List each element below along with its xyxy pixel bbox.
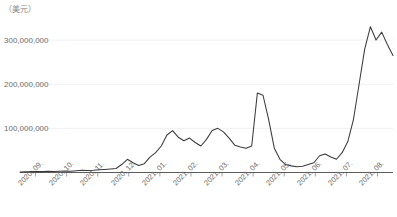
y-tick-label: 300,000,000 xyxy=(4,36,49,45)
y-tick-label: 200,000,000 xyxy=(4,80,49,89)
chart-plot-area xyxy=(0,0,397,217)
gridlines xyxy=(20,40,393,128)
data-series-line xyxy=(20,27,393,172)
chart-container: （美元） 100,000,000200,000,000300,000,000 2… xyxy=(0,0,397,217)
y-tick-label: 100,000,000 xyxy=(4,124,49,133)
